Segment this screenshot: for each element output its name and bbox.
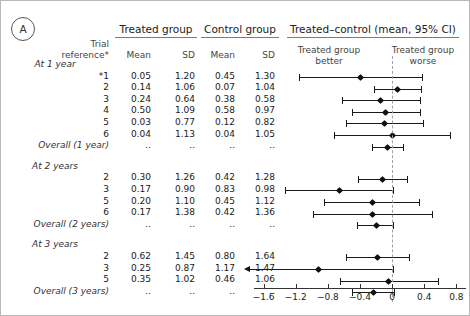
trial-2-2-ci-cap-low <box>340 278 341 285</box>
control-mean: 0.45 <box>201 71 235 81</box>
trial-reference: 5 <box>1 117 109 127</box>
overall-0-point <box>384 143 391 150</box>
table-row: 40.501.090.580.97 <box>1 105 249 117</box>
trial-0-0-point <box>356 74 363 81</box>
control-mean: .. <box>201 219 235 229</box>
trial-1-3-ci-cap-low <box>313 211 314 218</box>
trial-0-1-ci-cap-low <box>374 86 375 93</box>
treated-group-header-rule <box>115 37 197 38</box>
trial-reference: 3 <box>1 184 109 194</box>
trial-reference: 3 <box>1 263 109 273</box>
trial-reference-header: Trial reference* <box>1 39 109 61</box>
trial-1-2-point <box>368 199 375 206</box>
trial-1-3-point <box>368 210 375 217</box>
group-spacer <box>1 230 249 239</box>
x-axis-tick <box>360 284 361 288</box>
overall-1-point <box>373 222 380 229</box>
control-mean: 0.07 <box>201 82 235 92</box>
trial-0-3-ci-cap-high <box>420 109 421 116</box>
trial-2-0-point <box>374 254 381 261</box>
treated-mean: .. <box>117 286 151 296</box>
trial-0-3-point <box>382 109 389 116</box>
control-mean: .. <box>201 286 235 296</box>
trial-1-0-point <box>379 176 386 183</box>
x-axis-line <box>254 288 466 289</box>
trial-0-2-ci-cap-high <box>420 97 421 104</box>
control-mean: 0.83 <box>201 184 235 194</box>
x-axis-tick <box>424 284 425 288</box>
trial-0-2-point <box>377 97 384 104</box>
table-row: 50.201.100.451.12 <box>1 196 249 208</box>
control-mean: 0.42 <box>201 207 235 217</box>
trial-2-1-ci-arrow <box>244 266 250 272</box>
treated-mean: 0.17 <box>117 207 151 217</box>
treated-mean: 0.17 <box>117 184 151 194</box>
table-row: 60.041.130.041.05 <box>1 129 249 141</box>
treated-sd: 1.13 <box>161 129 195 139</box>
trial-reference: 5 <box>1 196 109 206</box>
trial-reference: 2 <box>1 251 109 261</box>
trial-reference: 6 <box>1 129 109 139</box>
group-heading: At 3 years <box>1 239 109 249</box>
trial-data-table: At 1 year*10.051.200.451.3020.141.060.07… <box>1 59 249 297</box>
treated-sd: .. <box>161 286 195 296</box>
trial-reference: *1 <box>1 71 109 81</box>
treated-sd: 1.26 <box>161 172 195 182</box>
trial-0-1-ci-cap-high <box>421 86 422 93</box>
trial-0-1-point <box>394 85 401 92</box>
treated-sd: 1.10 <box>161 196 195 206</box>
x-axis-tick-label: −0.8 <box>311 292 345 302</box>
trial-0-4-ci-cap-low <box>346 120 347 127</box>
table-row: 30.250.871.171.47 <box>1 263 249 275</box>
treated-mean: 0.30 <box>117 172 151 182</box>
x-axis-tick <box>392 284 393 288</box>
treated-sd: 0.64 <box>161 94 195 104</box>
trial-reference: 2 <box>1 82 109 92</box>
treated-mean: .. <box>117 140 151 150</box>
table-row: 20.301.260.421.28 <box>1 172 249 184</box>
trial-reference: 5 <box>1 274 109 284</box>
control-mean: 0.38 <box>201 94 235 104</box>
treated-sd: .. <box>161 140 195 150</box>
trial-0-0-ci-cap-low <box>299 74 300 81</box>
group-spacer <box>1 152 249 161</box>
x-axis-tick <box>264 284 265 288</box>
treated-sd: 0.77 <box>161 117 195 127</box>
control-mean: 1.17 <box>201 263 235 273</box>
treated-sd: 1.45 <box>161 251 195 261</box>
control-mean: .. <box>201 140 235 150</box>
x-axis-tick-label: 0.8 <box>439 292 470 302</box>
table-row: 60.171.380.421.36 <box>1 207 249 219</box>
overall-1-ci-cap-low <box>357 222 358 229</box>
treated-mean: 0.35 <box>117 274 151 284</box>
control-mean: 0.12 <box>201 117 235 127</box>
treated-mean: 0.04 <box>117 129 151 139</box>
treated-mean: 0.14 <box>117 82 151 92</box>
treated-mean: 0.20 <box>117 196 151 206</box>
treated-sd: 1.20 <box>161 71 195 81</box>
table-row-overall: Overall (3 years)........ <box>1 286 249 298</box>
trial-0-4-point <box>381 120 388 127</box>
x-axis-tick <box>296 284 297 288</box>
treated-sd: 1.38 <box>161 207 195 217</box>
x-axis-tick-label: 0 <box>375 292 409 302</box>
table-row: 50.030.770.120.82 <box>1 117 249 129</box>
overall-0-ci-cap-low <box>372 144 373 151</box>
treated-mean: 0.62 <box>117 251 151 261</box>
trial-1-0-ci-cap-low <box>358 176 359 183</box>
table-row: *10.051.200.451.30 <box>1 71 249 83</box>
treated-sd: 1.09 <box>161 105 195 115</box>
treated-mean: 0.03 <box>117 117 151 127</box>
trial-1-3-ci-cap-high <box>432 211 433 218</box>
panel-label: A <box>11 17 35 41</box>
zero-reference-line <box>392 56 393 302</box>
forest-plot-area: −1.6−1.2−0.8−0.400.40.8 <box>249 1 470 316</box>
group-heading: At 2 years <box>1 161 109 171</box>
trial-reference-header-line1: Trial <box>1 39 109 50</box>
x-axis-tick-label: −0.4 <box>343 292 377 302</box>
treated-mean: 0.05 <box>117 71 151 81</box>
x-axis-tick-label: −1.2 <box>279 292 313 302</box>
treated-sd: 0.87 <box>161 263 195 273</box>
trial-2-2-ci-cap-high <box>438 278 439 285</box>
group-heading: At 1 year <box>1 59 109 69</box>
